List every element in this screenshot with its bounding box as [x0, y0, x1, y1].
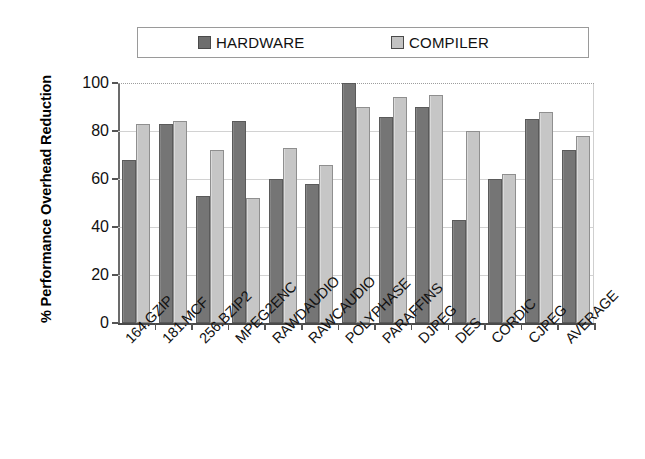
y-axis-tick-mark — [112, 322, 118, 324]
legend-label-hardware: HARDWARE — [216, 34, 305, 51]
legend-entry-compiler[interactable]: COMPILER — [391, 32, 489, 53]
bar-compiler-256-bzip2 — [210, 150, 224, 323]
y-axis-tick-label: 60 — [91, 170, 109, 188]
y-axis-line — [118, 83, 120, 323]
y-axis-tick-label: 0 — [100, 314, 109, 332]
y-axis-tick-mark — [112, 178, 118, 180]
chart-legend: HARDWARE COMPILER — [137, 27, 589, 58]
bar-compiler-164-gzip — [136, 124, 150, 323]
bar-hardware-cordic — [488, 179, 502, 323]
legend-entry-hardware[interactable]: HARDWARE — [198, 32, 305, 53]
y-axis-tick-label: 80 — [91, 122, 109, 140]
chart-figure: HARDWARE COMPILER % Performance Overhead… — [0, 0, 645, 459]
bar-compiler-181-mcf — [173, 121, 187, 323]
bar-hardware-cjpeg — [525, 119, 539, 323]
hardware-swatch-icon — [198, 36, 211, 49]
gridline — [118, 83, 594, 84]
bar-compiler-average — [576, 136, 590, 323]
plot-right-border — [593, 83, 594, 323]
bar-hardware-average — [562, 150, 576, 323]
y-axis-tick-label: 100 — [82, 74, 109, 92]
y-axis-tick-label: 20 — [91, 266, 109, 284]
y-axis-tick-mark — [112, 82, 118, 84]
y-axis-tick-mark — [112, 274, 118, 276]
y-axis-tick-mark — [112, 226, 118, 228]
bar-compiler-cordic — [502, 174, 516, 323]
y-axis-tick-mark — [112, 130, 118, 132]
y-axis-tick-label: 40 — [91, 218, 109, 236]
y-axis-title: % Performance Overhead Reduction — [38, 69, 54, 329]
x-axis-tick-mark — [484, 323, 486, 330]
compiler-swatch-icon — [391, 36, 404, 49]
bar-compiler-des — [466, 131, 480, 323]
bar-compiler-cjpeg — [539, 112, 553, 323]
legend-label-compiler: COMPILER — [409, 34, 489, 51]
bar-hardware-164-gzip — [122, 160, 136, 323]
